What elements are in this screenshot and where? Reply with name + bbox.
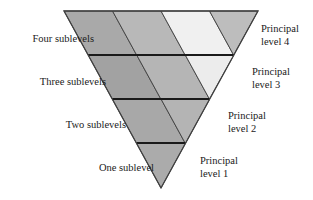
label-one-sublevel: One sublevel (62, 162, 154, 175)
label-two-sublevels: Two sublevels (34, 119, 126, 132)
label-principal-level-1: Principal level 1 (200, 155, 252, 180)
label-three-sublevels: Three sublevels (14, 76, 106, 89)
label-principal-level-4: Principal level 4 (261, 23, 313, 48)
label-four-sublevels: Four sublevels (2, 33, 94, 46)
label-principal-level-3: Principal level 3 (252, 66, 304, 91)
label-principal-level-2: Principal level 2 (228, 110, 280, 135)
figure-canvas: Four sublevels Three sublevels Two suble… (0, 0, 313, 200)
